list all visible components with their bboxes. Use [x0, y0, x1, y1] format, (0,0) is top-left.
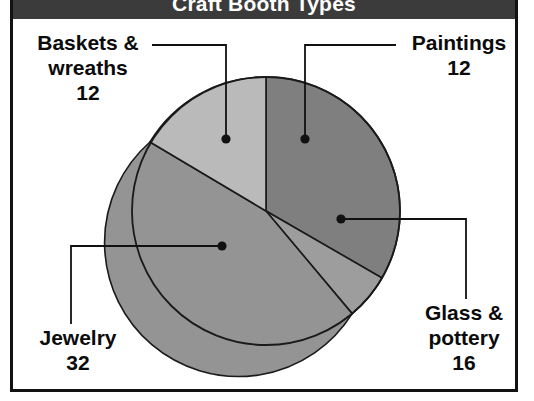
slice-label-glass-pottery: Glass & pottery 16	[404, 300, 524, 375]
slice-label-jewelry: Jewelry 32	[18, 325, 138, 375]
leader-dot-baskets-wreaths	[221, 134, 230, 143]
leader-dot-paintings	[300, 134, 309, 143]
slice-label-baskets-wreaths: Baskets & wreaths 12	[18, 30, 158, 105]
slice-label-paintings: Paintings 12	[398, 30, 520, 80]
leader-dot-jewelry	[217, 241, 226, 250]
leader-dot-glass-pottery	[336, 214, 345, 223]
chart-screenshot: Craft Booth Types Baskets & wreaths 12 P…	[0, 0, 534, 401]
